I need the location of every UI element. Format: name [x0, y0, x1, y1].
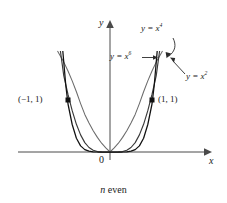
origin-label: 0: [99, 155, 104, 165]
curve-label-x-fourth-base: y = x: [141, 23, 160, 33]
even-power-functions-figure: y x 0 y = x4 y = x6 y = x2 (−1, 1) (1, 1…: [0, 0, 227, 203]
y-axis-label: y: [99, 18, 103, 28]
point-label-minus-one-one: (−1, 1): [18, 95, 43, 104]
marked-point-minus-one-one: [66, 98, 71, 103]
curve-label-x-squared-exponent: 2: [205, 70, 208, 76]
leader-arrowhead-x2: [170, 58, 175, 63]
curve-label-x-sixth-base: y = x: [110, 51, 129, 61]
point-label-one-one: (1, 1): [158, 95, 178, 104]
marked-point-one-one: [150, 98, 155, 103]
curve-label-x-fourth-exponent: 4: [160, 22, 163, 28]
leader-line-x2: [173, 61, 186, 75]
curve-label-x-sixth-exponent: 6: [129, 50, 132, 56]
curve-label-x-squared-base: y = x: [186, 71, 205, 81]
curve-label-x-fourth: y = x4: [141, 24, 162, 33]
curve-label-x-squared: y = x2: [186, 72, 207, 81]
x-axis-label: x: [209, 156, 213, 166]
figure-caption-text: even: [105, 184, 126, 195]
curve-label-x-sixth: y = x6: [110, 52, 131, 61]
figure-caption: n even: [0, 184, 227, 195]
y-axis-arrowhead: [106, 20, 114, 28]
